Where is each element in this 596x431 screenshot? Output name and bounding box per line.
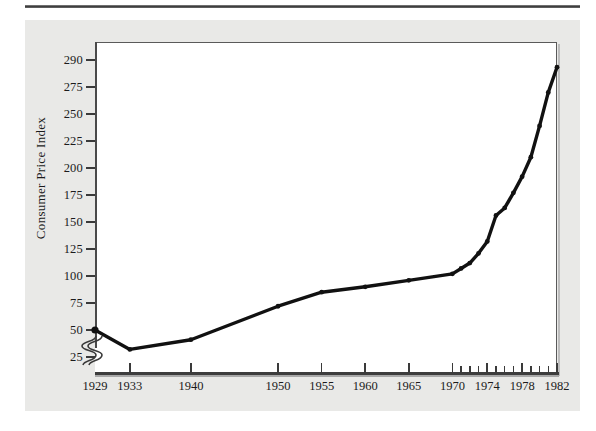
data-point-marker [546,90,551,95]
top-horizontal-rule [25,5,580,8]
figure-root: Consumer Price Index 2902752502252001751… [0,0,596,431]
data-point-marker [537,123,542,128]
data-point-marker [363,284,368,289]
data-point-marker [528,155,533,160]
chart-panel: Consumer Price Index 2902752502252001751… [25,20,580,411]
data-point-marker [494,213,499,218]
data-point-marker [485,239,490,244]
cpi-data-point-markers [91,65,559,352]
data-point-marker [450,271,455,276]
data-point-marker [91,326,98,333]
data-point-marker [319,290,324,295]
data-point-marker [520,174,525,179]
data-point-marker [276,304,281,309]
data-point-marker [406,278,411,283]
cpi-line-series [95,67,557,349]
data-point-marker [127,347,132,352]
data-point-marker [459,266,464,271]
data-point-marker [555,65,560,70]
data-point-marker [188,337,193,342]
data-point-marker [476,251,481,256]
data-point-marker [502,206,507,211]
data-point-marker [467,261,472,266]
data-point-marker [511,190,516,195]
data-series-layer [25,20,580,411]
